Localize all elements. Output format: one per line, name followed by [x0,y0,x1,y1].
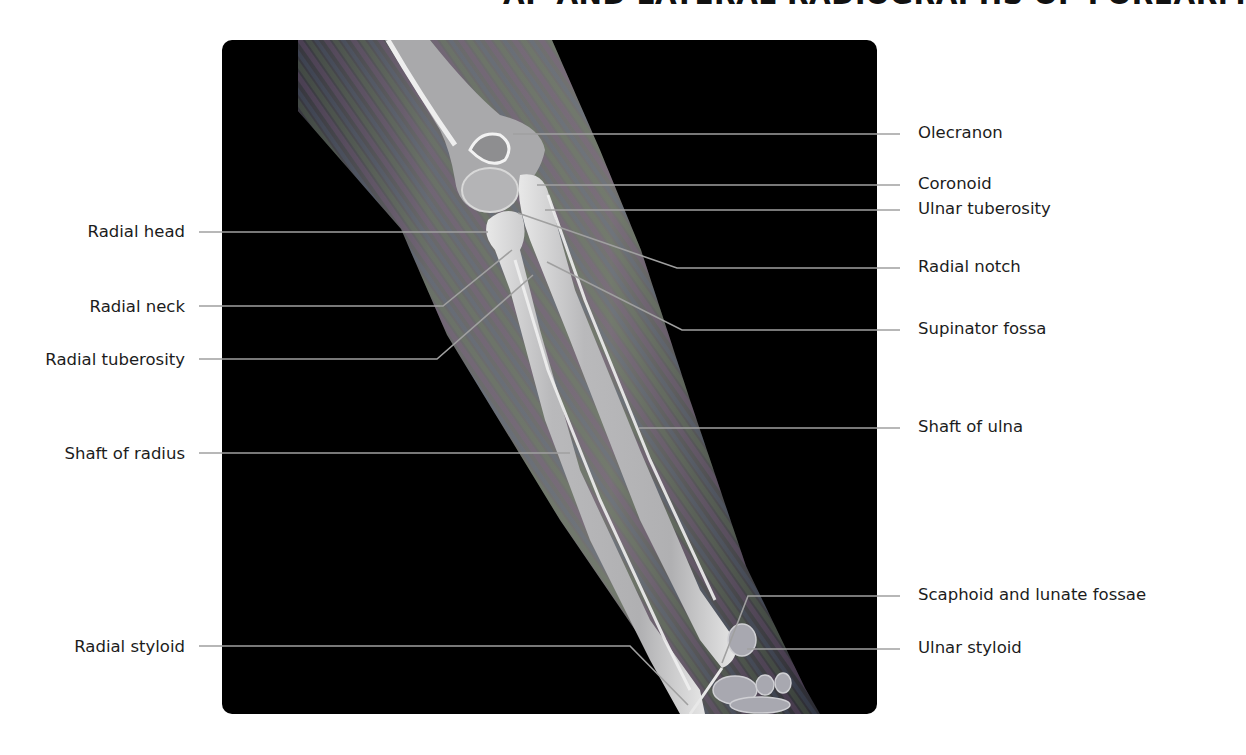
label-olecranon: Olecranon [918,123,1003,143]
label-coronoid: Coronoid [918,174,992,194]
label-radial-head: Radial head [88,222,185,242]
label-radial-tuberosity: Radial tuberosity [45,350,185,370]
label-ulnar-tuberosity: Ulnar tuberosity [918,199,1051,219]
label-radial-styloid: Radial styloid [74,637,185,657]
label-ulnar-styloid: Ulnar styloid [918,638,1022,658]
label-radial-notch: Radial notch [918,257,1021,277]
label-scaphoid-lunate-fossae: Scaphoid and lunate fossae [918,585,1146,605]
label-radial-neck: Radial neck [90,297,185,317]
label-supinator-fossa: Supinator fossa [918,319,1046,339]
label-shaft-of-ulna: Shaft of ulna [918,417,1023,437]
label-shaft-of-radius: Shaft of radius [65,444,185,464]
